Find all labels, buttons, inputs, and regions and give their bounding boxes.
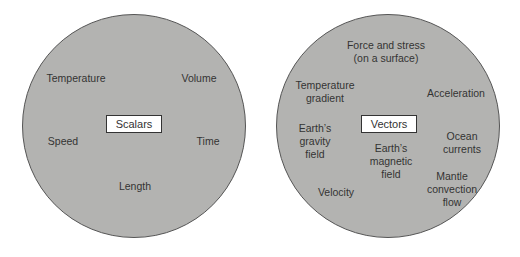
vector-acceleration: Acceleration <box>427 87 485 100</box>
scalar-temperature: Temperature <box>47 72 106 85</box>
vector-force-line2: (on a surface) <box>354 52 419 65</box>
vector-mantle-line1: Mantle <box>436 170 468 183</box>
scalar-length: Length <box>119 180 151 193</box>
vector-gravity-line2: gravity <box>300 135 331 148</box>
vectors-title-box: Vectors <box>361 115 417 133</box>
scalar-speed: Speed <box>48 135 78 148</box>
vector-magnetic-line3: field <box>381 168 400 181</box>
scalars-title-box: Scalars <box>106 115 162 133</box>
vector-mantle-line3: flow <box>443 196 462 209</box>
vector-magnetic-line2: magnetic <box>370 155 413 168</box>
vector-ocean-line1: Ocean <box>447 130 478 143</box>
vector-magnetic-line1: Earth’s <box>375 142 408 155</box>
vector-tempgrad-line1: Temperature <box>296 79 355 92</box>
vector-gravity-line1: Earth’s <box>299 122 332 135</box>
vector-force-line1: Force and stress <box>347 39 425 52</box>
scalar-time: Time <box>197 135 220 148</box>
vector-ocean-line2: currents <box>443 143 481 156</box>
scalar-volume: Volume <box>181 72 216 85</box>
vector-velocity: Velocity <box>318 186 354 199</box>
vector-mantle-line2: convection <box>427 183 477 196</box>
vector-tempgrad-line2: gradient <box>306 92 344 105</box>
vector-gravity-line3: field <box>305 148 324 161</box>
